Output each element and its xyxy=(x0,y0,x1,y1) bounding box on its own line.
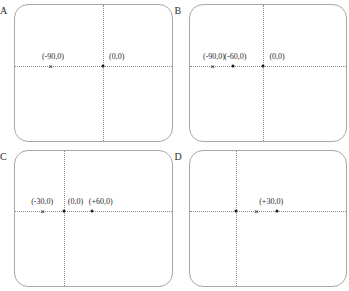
dot-icon xyxy=(90,210,93,213)
dot-icon xyxy=(101,64,104,67)
point-label: (0,0) xyxy=(68,198,83,206)
horizontal-axis xyxy=(15,66,172,67)
marker-dot xyxy=(232,64,235,67)
vertical-axis xyxy=(236,151,237,287)
point-label: (+30,0) xyxy=(259,198,283,206)
panel-plot-area: ×(-30,0)(0,0)(+60,0) xyxy=(14,150,173,288)
panel-d: D×(+30,0) xyxy=(175,146,349,291)
point-label: (0,0) xyxy=(109,53,124,61)
point-label: (-90,0) xyxy=(42,53,64,61)
marker-cross: × xyxy=(49,64,53,67)
panel-letter-b: B xyxy=(175,6,182,16)
marker-dot xyxy=(90,210,93,213)
point-label: (0,0) xyxy=(269,53,284,61)
point-label: (-30,0) xyxy=(31,198,53,206)
marker-dot xyxy=(262,64,265,67)
panel-a: A×(-90,0)(0,0) xyxy=(0,0,175,146)
horizontal-axis xyxy=(15,211,172,212)
panel-plot-area: ×(-90,0)(0,0) xyxy=(14,4,173,142)
panel-c: C×(-30,0)(0,0)(+60,0) xyxy=(0,146,175,291)
cross-icon: × xyxy=(48,64,53,67)
point-label: (-90,0) xyxy=(203,53,225,61)
vertical-axis xyxy=(64,151,65,287)
panel-letter-d: D xyxy=(175,152,182,162)
panel-plot-area: ×(+30,0) xyxy=(189,150,348,288)
panel-plot-area: ×(-90,0)(-60,0)(0,0) xyxy=(189,4,348,142)
marker-cross: × xyxy=(211,64,215,67)
dot-icon xyxy=(262,64,265,67)
cross-icon: × xyxy=(40,210,45,213)
dot-icon xyxy=(235,210,238,213)
vertical-axis xyxy=(263,5,264,141)
panel-b: B×(-90,0)(-60,0)(0,0) xyxy=(175,0,349,146)
figure-panel-grid: A×(-90,0)(0,0)B×(-90,0)(-60,0)(0,0)C×(-3… xyxy=(0,0,349,291)
marker-cross: × xyxy=(41,210,45,213)
cross-icon: × xyxy=(210,64,215,67)
dot-icon xyxy=(232,64,235,67)
marker-cross: × xyxy=(255,210,259,213)
horizontal-axis xyxy=(190,211,347,212)
cross-icon: × xyxy=(254,210,259,213)
marker-dot xyxy=(101,64,104,67)
vertical-axis xyxy=(103,5,104,141)
marker-dot xyxy=(235,210,238,213)
panel-letter-c: C xyxy=(0,152,7,162)
dot-icon xyxy=(276,210,279,213)
panel-letter-a: A xyxy=(0,6,7,16)
marker-dot xyxy=(62,210,65,213)
point-label: (-60,0) xyxy=(224,53,246,61)
point-label: (+60,0) xyxy=(89,198,113,206)
marker-dot xyxy=(276,210,279,213)
dot-icon xyxy=(62,210,65,213)
